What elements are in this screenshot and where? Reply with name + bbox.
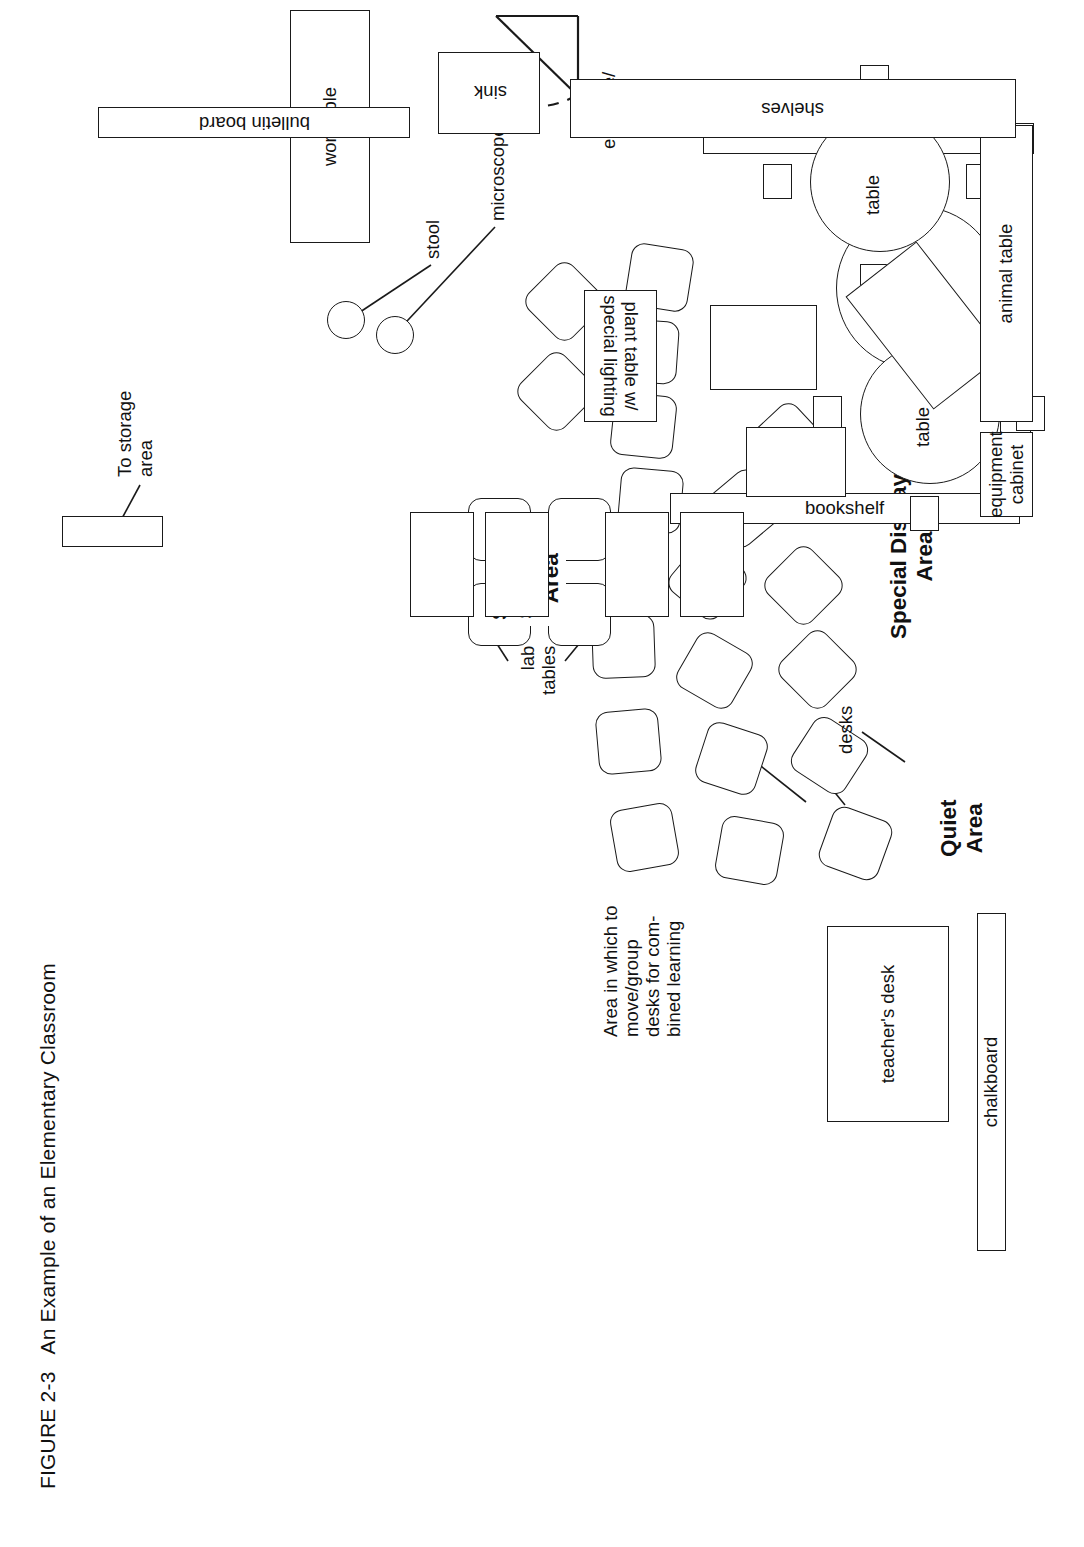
student-desk [786,712,873,799]
teachers-desk: teacher's desk [827,926,949,1122]
quiet-table-label: table [912,407,933,447]
student-desk [713,814,786,887]
quiet-desk [746,427,846,497]
stool-shape [327,301,365,339]
lab-table [410,512,474,617]
shelves: shelves [570,79,1016,138]
microscope-shape [376,316,414,354]
figure-caption: FIGURE 2-3 An Example of an Elementary C… [36,963,60,1489]
student-desk [608,801,681,874]
sink-label: sink [474,82,507,103]
student-desk [692,719,771,798]
lab-tables-label: lab tables [517,646,559,695]
quiet-desks-label: desks [835,706,856,754]
bulletin-board-bottom: bulletin board [98,107,410,138]
combine-learning-note: Area in which to move/group desks for co… [600,905,684,1037]
animal-table: animal table [980,125,1033,422]
plant-table: plant table w/ special lighting [584,290,657,422]
student-desk [759,541,848,630]
chair [763,164,792,199]
equipment-cabinet: equipment cabinet [980,432,1033,517]
rotated-page-canvas: FIGURE 2-3 An Example of an Elementary C… [0,0,1084,1547]
chalkboard: chalkboard [977,913,1006,1251]
lab-table [605,512,669,617]
storage-door-panel [62,516,163,547]
storage-door-label: To storage area [114,391,156,477]
lab-table [485,512,549,617]
student-desk [594,707,662,775]
student-desk [815,803,896,884]
stool-label: stool [422,220,443,259]
quiet-table-label: table [862,175,883,215]
student-desk [773,625,862,714]
chair [813,396,842,431]
lab-table [680,512,744,617]
zone-label-quiet: Quiet Area [936,799,987,857]
student-desk [671,627,757,713]
chair [910,496,939,531]
quiet-desk [710,305,817,390]
microscope-label: microscope [487,126,508,221]
classroom-floor-plan: FIGURE 2-3 An Example of an Elementary C… [0,0,1084,1547]
